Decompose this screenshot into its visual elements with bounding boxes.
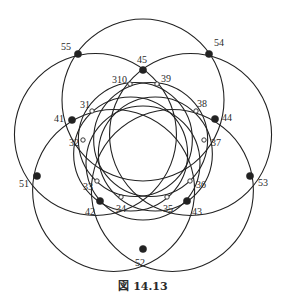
point-label-52: 52 [135, 257, 145, 268]
filled-point [33, 172, 40, 179]
point-label-32: 32 [69, 137, 79, 148]
point-label-45: 45 [137, 54, 147, 65]
filled-point [211, 115, 218, 122]
point-label-38: 38 [197, 98, 207, 109]
large-circle [91, 109, 253, 271]
point-label-37: 37 [211, 137, 221, 148]
open-point [188, 179, 192, 183]
open-point [155, 82, 159, 86]
point-label-44: 44 [222, 112, 232, 123]
filled-point [246, 172, 253, 179]
open-point [81, 138, 85, 142]
open-point [128, 82, 132, 86]
filled-point [183, 197, 190, 204]
point-label-53: 53 [258, 177, 268, 188]
large-circle [14, 54, 176, 216]
point-label-36: 36 [196, 179, 206, 190]
filled-point [96, 197, 103, 204]
point-label-33: 33 [83, 181, 93, 192]
large-circle [110, 54, 272, 216]
open-point [194, 109, 198, 113]
open-point [95, 179, 99, 183]
open-point [202, 138, 206, 142]
filled-point [68, 116, 75, 123]
point-label-39: 39 [161, 73, 171, 84]
open-point [119, 195, 123, 199]
large-circle [33, 109, 195, 271]
filled-point [74, 50, 81, 57]
small-circle [98, 97, 212, 211]
small-circles [74, 82, 213, 220]
point-label-55: 55 [61, 41, 71, 52]
open-point [165, 195, 169, 199]
figure-caption: 図 14.13 [118, 279, 167, 293]
filled-point [139, 66, 146, 73]
point-label-31: 31 [80, 99, 90, 110]
point-label-34: 34 [116, 203, 126, 214]
point-label-310: 310 [112, 74, 127, 85]
figure-14-13: 3103931383237333634354555544144515342435… [0, 0, 284, 303]
open-point [90, 109, 94, 113]
point-label-35: 35 [163, 203, 173, 214]
point-label-41: 41 [54, 113, 64, 124]
point-label-51: 51 [19, 178, 29, 189]
filled-point [139, 245, 146, 252]
filled-point [205, 50, 212, 57]
point-label-43: 43 [192, 206, 202, 217]
big-points [33, 50, 253, 252]
point-label-54: 54 [214, 37, 224, 48]
point-label-42: 42 [85, 206, 95, 217]
small-circle [74, 97, 188, 211]
